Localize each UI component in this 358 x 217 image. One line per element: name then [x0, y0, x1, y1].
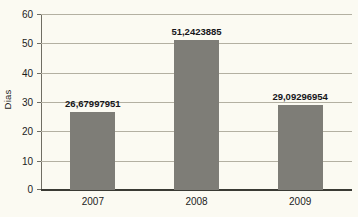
bar[interactable] [174, 40, 219, 190]
y-axis-tick [37, 102, 41, 103]
y-axis-tick [37, 43, 41, 44]
bar-value-label: 51,2423885 [171, 26, 221, 37]
y-axis-tick [37, 161, 41, 162]
bar[interactable] [70, 112, 115, 190]
y-axis-title: Dias [2, 77, 13, 123]
bar-value-label: 29,09296954 [272, 91, 327, 102]
y-axis-tick-label: 30 [22, 97, 33, 108]
y-axis-tick-label: 20 [22, 126, 33, 137]
y-axis-tick-label: 10 [22, 155, 33, 166]
y-axis-tick-label: 40 [22, 67, 33, 78]
y-axis-tick [37, 14, 41, 15]
y-axis-tick-label: 50 [22, 38, 33, 49]
y-axis-tick-label: 0 [27, 184, 33, 195]
y-axis-tick [37, 73, 41, 74]
x-axis-tick-label: 2008 [185, 196, 207, 207]
x-axis-tick-label: 2007 [82, 196, 104, 207]
bar-value-label: 26,67997951 [65, 98, 120, 109]
bar[interactable] [278, 105, 323, 190]
x-axis-tick-label: 2009 [289, 196, 311, 207]
plot-area: 0102030405060 26,6799795151,242388529,09… [41, 14, 352, 190]
y-axis-tick-label: 60 [22, 9, 33, 20]
bar-chart: Dias 0102030405060 26,6799795151,2423885… [0, 0, 358, 217]
y-axis-tick [37, 189, 41, 190]
y-axis-tick [37, 131, 41, 132]
gridline: 60 [41, 14, 352, 15]
